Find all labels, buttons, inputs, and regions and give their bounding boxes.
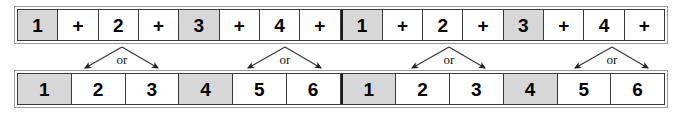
cell[interactable]: + bbox=[220, 10, 260, 40]
connector-paths bbox=[85, 47, 648, 68]
cell[interactable]: 3 bbox=[179, 10, 219, 40]
or-label: or bbox=[443, 53, 456, 66]
cell[interactable]: + bbox=[544, 10, 584, 40]
cell[interactable]: 6 bbox=[611, 74, 664, 104]
cell[interactable]: 2 bbox=[396, 74, 450, 104]
cell[interactable]: 4 bbox=[260, 10, 300, 40]
cell[interactable]: 2 bbox=[423, 10, 463, 40]
cell[interactable]: 1 bbox=[341, 10, 383, 40]
or-label: or bbox=[606, 53, 619, 66]
cell[interactable]: 5 bbox=[558, 74, 612, 104]
cell[interactable]: 4 bbox=[179, 74, 233, 104]
top-row-cells: 1+2+3+4+1+2+3+4+ bbox=[17, 9, 665, 41]
cell[interactable]: 1 bbox=[18, 10, 58, 40]
cell[interactable]: + bbox=[463, 10, 503, 40]
cell-diagram: 1+2+3+4+1+2+3+4+ 123456123456 orororor bbox=[0, 0, 685, 120]
cell[interactable]: + bbox=[300, 10, 340, 40]
cell[interactable]: + bbox=[58, 10, 98, 40]
top-row-frame: 1+2+3+4+1+2+3+4+ bbox=[14, 6, 668, 44]
cell[interactable]: 4 bbox=[504, 74, 558, 104]
bottom-row-cells: 123456123456 bbox=[17, 73, 665, 105]
cell[interactable]: 3 bbox=[504, 10, 544, 40]
cell[interactable]: 1 bbox=[341, 74, 397, 104]
cell[interactable]: 1 bbox=[18, 74, 72, 104]
cell[interactable]: 6 bbox=[287, 74, 341, 104]
cell[interactable]: 3 bbox=[126, 74, 180, 104]
bottom-row-frame: 123456123456 bbox=[14, 70, 668, 108]
cell[interactable]: + bbox=[139, 10, 179, 40]
cell[interactable]: 3 bbox=[450, 74, 504, 104]
or-label: or bbox=[116, 53, 129, 66]
cell[interactable]: + bbox=[383, 10, 423, 40]
or-label: or bbox=[279, 53, 292, 66]
cell[interactable]: 2 bbox=[99, 10, 139, 40]
cell[interactable]: 2 bbox=[72, 74, 126, 104]
cell[interactable]: 5 bbox=[233, 74, 287, 104]
cell[interactable]: 4 bbox=[584, 10, 624, 40]
cell[interactable]: + bbox=[625, 10, 664, 40]
